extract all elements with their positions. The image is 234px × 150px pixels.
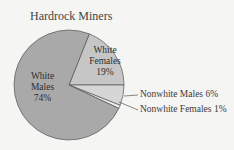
label-line: Males (20, 82, 65, 93)
label-line: White (85, 45, 125, 56)
label-value: 74% (20, 93, 65, 104)
label-white-males: White Males 74% (20, 71, 65, 104)
label-line: White (20, 71, 65, 82)
label-nonwhite-males: Nonwhite Males 6% (140, 89, 218, 99)
label-nonwhite-females: Nonwhite Females 1% (140, 104, 227, 114)
callout-line-nonwhite-males (124, 95, 138, 96)
callout-line-nonwhite-females (119, 102, 138, 110)
label-white-females: White Females 19% (85, 45, 125, 78)
label-value: 19% (85, 67, 125, 78)
label-line: Females (85, 56, 125, 67)
